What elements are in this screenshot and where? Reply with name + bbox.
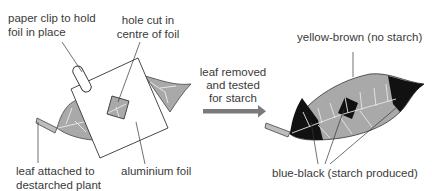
label-leaf-attached-line1: leaf attached to xyxy=(16,164,95,178)
starch-experiment-diagram: paper clip to hold foil in place hole cu… xyxy=(0,0,432,191)
label-aluminium-foil: aluminium foil xyxy=(121,164,191,178)
right-tested-leaf xyxy=(265,52,424,164)
label-paper-clip-line2: foil in place xyxy=(8,25,66,39)
label-arrow-line2: and tested xyxy=(198,78,268,92)
label-hole-line2: centre of foil xyxy=(110,27,186,41)
left-leaf-stem xyxy=(36,118,57,133)
left-leaf-with-foil xyxy=(36,42,191,164)
label-hole-line1: hole cut in xyxy=(112,13,184,27)
label-paper-clip-line1: paper clip to hold xyxy=(8,11,96,25)
label-arrow-line3: for starch xyxy=(198,91,268,105)
label-arrow-line1: leaf removed xyxy=(198,65,268,79)
label-no-starch: yellow-brown (no starch) xyxy=(297,30,422,44)
process-arrow xyxy=(203,105,266,118)
label-starch-produced: blue-black (starch produced) xyxy=(272,166,418,180)
label-leaf-attached-line2: destarched plant xyxy=(16,178,101,191)
